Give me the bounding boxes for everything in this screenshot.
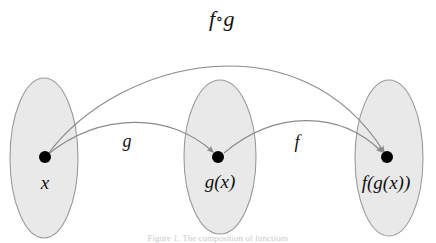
arrow-label-f: f xyxy=(294,132,299,153)
set-label-intermediate-text: g(x) xyxy=(205,171,236,192)
element-dot-gx xyxy=(212,151,224,163)
set-label-codomain: f(g(x)) xyxy=(362,172,411,194)
set-label-codomain-text: f(g(x)) xyxy=(362,172,411,193)
figure-canvas: f∘g g f x g(x) f(g(x)) Figure 1. The com… xyxy=(0,0,436,243)
element-dot-x xyxy=(39,151,51,163)
set-label-domain: x xyxy=(41,172,49,194)
composition-label: f∘g xyxy=(209,6,235,32)
figure-caption: Figure 1. The composition of functions xyxy=(148,233,289,243)
diagram-svg xyxy=(0,0,436,243)
set-label-intermediate: g(x) xyxy=(205,171,236,193)
composition-label-g: g xyxy=(224,6,235,31)
arrow-label-g: g xyxy=(123,131,132,152)
element-dot-fgx xyxy=(381,151,393,163)
